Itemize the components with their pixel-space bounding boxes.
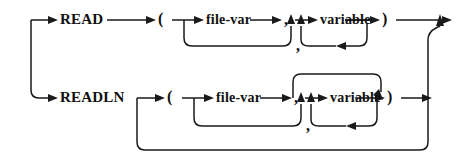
rparen-top: ) [382,11,388,27]
arrowhead-into-readln [48,94,58,102]
arrowhead-filevar-to-comma-top [272,16,282,24]
nonterminal-file-var-top: file-var [206,13,251,27]
arrowhead-into-variable-bottom [318,94,328,102]
nonterminal-variable-top: variable [320,13,371,27]
lparen-bottom: ( [167,89,173,105]
comma-separator-bottom: , [294,90,298,106]
arrowhead-into-variable-top [308,16,318,24]
arrowhead-loop-merge-bottom [307,92,315,102]
arrowhead-variable-to-rparen-top [370,16,380,24]
arrowhead-loop-comma-top [336,42,346,50]
nonterminal-variable-bottom: variable [330,91,381,105]
rail-loop-down-bottom [354,102,377,126]
terminal-read: READ [60,12,103,27]
rparen-bottom: ) [387,89,393,105]
terminal-readln: READLN [60,90,125,105]
lparen-top: ( [158,11,164,27]
arrowhead-into-filevar-top [194,16,204,24]
arrowhead-read-to-lparen [146,16,156,24]
rail-loop-down-top [344,24,367,46]
nonterminal-file-var-bottom: file-var [216,91,261,105]
arrowhead-loop-comma-bottom [346,122,356,130]
arrowhead-exit-bottom [422,94,432,102]
arrowhead-filevar-to-comma-bottom [282,94,292,102]
comma-separator-top: , [284,12,288,28]
comma-loop-top: , [296,38,300,54]
arrowhead-into-read [48,16,58,24]
comma-loop-bottom: , [306,118,310,134]
entry-drop-to-readln [31,20,50,98]
arrowhead-readln-to-lparen [155,94,165,102]
syntax-diagram: READ ( file-var , variable , ) READLN ( … [0,0,462,159]
rail-loop-riser-bottom [311,104,332,126]
arrowhead-loop-merge-top [297,14,305,24]
arrowhead-into-filevar-bottom [204,94,214,102]
rail-loop-riser-top [301,26,322,46]
arrowhead-exit-top [442,16,452,24]
